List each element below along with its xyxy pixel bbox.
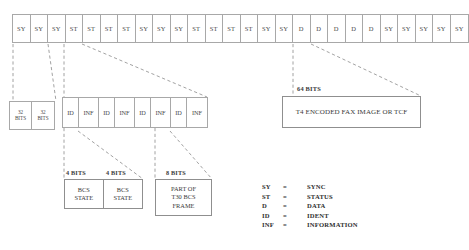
frame-cell: D [363, 15, 381, 42]
frame-cell: SY [451, 15, 469, 42]
legend-row: ST = STATUS [262, 193, 358, 203]
frame-cell: D [346, 15, 364, 42]
legend-separator: = [283, 212, 307, 219]
bcs-line-2: STATE [74, 194, 93, 202]
frame-cell: SY [48, 15, 66, 42]
t30-line-2: T30 BCS [172, 193, 196, 201]
information-cell: INF [115, 98, 135, 127]
ident-cell: ID [63, 98, 79, 127]
frame-cell: D [311, 15, 329, 42]
status-id-inf-row: ID INF ID INF ID INF ID INF [62, 97, 208, 128]
legend-full: DATA [307, 202, 326, 209]
frame-cell: ST [223, 15, 241, 42]
frame-cell: SY [13, 15, 31, 42]
legend-full: SYNC [307, 183, 326, 190]
abbreviation-legend: SY = SYNC ST = STATUS D = DATA ID = IDEN… [262, 183, 358, 231]
sync-32bit-box: 32 BITS [32, 102, 54, 129]
legend-row: INF = INFORMATION [262, 221, 358, 231]
frame-cell: ST [101, 15, 119, 42]
ident-cell: ID [99, 98, 115, 127]
legend-separator: = [283, 193, 307, 200]
frame-cell: D [293, 15, 311, 42]
legend-abbr: INF [262, 221, 283, 228]
legend-row: ID = IDENT [262, 212, 358, 222]
frame-cell: SY [433, 15, 451, 42]
legend-full: IDENT [307, 212, 329, 219]
bits-unit: BITS [15, 116, 26, 121]
frame-cell: SY [136, 15, 154, 42]
t30-bits-label: 8 BITS [166, 169, 186, 176]
legend-abbr: ID [262, 212, 283, 219]
information-cell: INF [187, 98, 207, 127]
legend-separator: = [283, 202, 307, 209]
top-frame-sequence: SY SY SY ST ST ST ST SY SY SY ST ST ST S… [12, 14, 469, 43]
bcs-left-bits-label: 4 BITS [66, 169, 86, 176]
frame-cell: SY [258, 15, 276, 42]
bcs-state-box: BCS STATE [65, 180, 104, 208]
frame-cell: ST [206, 15, 224, 42]
legend-separator: = [283, 183, 307, 190]
legend-row: D = DATA [262, 202, 358, 212]
frame-cell: ST [188, 15, 206, 42]
frame-cell: SY [171, 15, 189, 42]
bcs-line-1: BCS [78, 186, 90, 194]
legend-row: SY = SYNC [262, 183, 358, 193]
t30-line-1: PART OF [171, 185, 196, 193]
frame-cell: D [328, 15, 346, 42]
bcs-line-2: STATE [113, 194, 132, 202]
bcs-line-1: BCS [117, 186, 129, 194]
bcs-right-bits-label: 4 BITS [106, 169, 126, 176]
ident-cell: ID [135, 98, 151, 127]
t4-encoded-fax-box: T4 ENCODED FAX IMAGE OR TCF [282, 96, 421, 128]
bcs-state-boxes: BCS STATE BCS STATE [64, 179, 143, 209]
t30-line-3: FRAME [172, 202, 194, 210]
sync-32bit-boxes: 32 BITS 32 BITS [9, 101, 55, 130]
frame-cell: SY [398, 15, 416, 42]
legend-full: STATUS [307, 193, 333, 200]
frame-cell: SY [31, 15, 49, 42]
legend-abbr: SY [262, 183, 283, 190]
frame-cell: SY [381, 15, 399, 42]
legend-separator: = [283, 221, 307, 228]
data-bits-label: 64 BITS [297, 85, 321, 92]
bcs-state-box: BCS STATE [104, 180, 143, 208]
frame-cell: SY [276, 15, 294, 42]
legend-full: INFORMATION [307, 221, 358, 228]
ident-cell: ID [171, 98, 187, 127]
legend-abbr: D [262, 202, 283, 209]
frame-cell: SY [153, 15, 171, 42]
bits-unit: BITS [37, 116, 48, 121]
information-cell: INF [79, 98, 99, 127]
frame-cell: ST [118, 15, 136, 42]
frame-cell: ST [66, 15, 84, 42]
frame-cell: ST [83, 15, 101, 42]
information-cell: INF [151, 98, 171, 127]
t30-bcs-frame-box: PART OF T30 BCS FRAME [155, 179, 212, 216]
sync-32bit-box: 32 BITS [10, 102, 32, 129]
frame-cell: SY [416, 15, 434, 42]
frame-cell: ST [241, 15, 259, 42]
legend-abbr: ST [262, 193, 283, 200]
